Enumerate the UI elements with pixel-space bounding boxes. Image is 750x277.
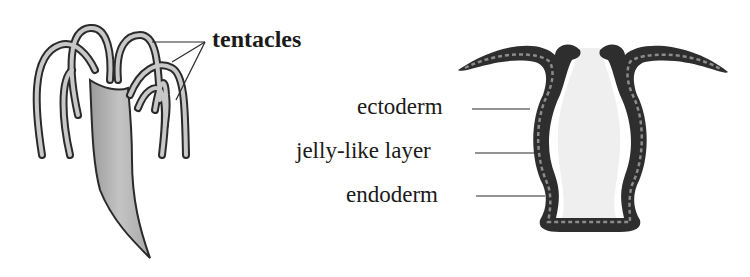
cross-section-leader-lines: [472, 109, 545, 196]
label-ectoderm: ectoderm: [357, 95, 443, 118]
diagram-canvas: tentacles ectoderm jelly-like layer endo…: [0, 0, 750, 277]
gastric-cavity: [558, 48, 620, 218]
label-jelly-like-layer: jelly-like layer: [296, 139, 431, 162]
label-endoderm: endoderm: [346, 183, 438, 206]
